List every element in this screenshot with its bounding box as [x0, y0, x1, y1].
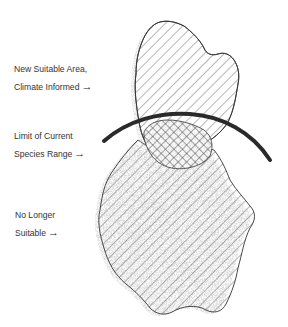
label-text: Suitable — [15, 228, 46, 238]
range-shift-diagram — [0, 0, 288, 327]
label-line: Species Range→ — [14, 145, 85, 163]
label-line: No Longer — [15, 207, 59, 224]
label-line: Climate Informed→ — [14, 78, 92, 96]
label-line: Suitable→ — [15, 224, 59, 242]
right-arrow-icon: → — [81, 80, 92, 92]
right-arrow-icon: → — [74, 147, 85, 159]
label-new-suitable-area: New Suitable Area, Climate Informed→ — [14, 61, 92, 96]
label-no-longer-suitable: No Longer Suitable→ — [15, 207, 59, 242]
label-limit-current-range: Limit of Current Species Range→ — [14, 128, 85, 163]
label-line: Limit of Current — [14, 128, 85, 145]
label-text: Species Range — [14, 149, 72, 159]
label-line: New Suitable Area, — [14, 61, 92, 78]
right-arrow-icon: → — [48, 226, 59, 238]
label-text: Climate Informed — [14, 82, 79, 92]
